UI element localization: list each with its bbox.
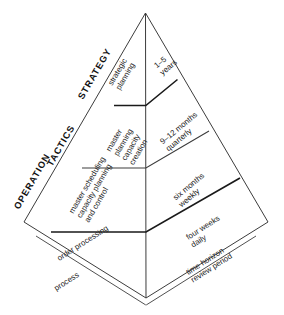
- planning-pyramid-diagram: OPERATION TACTICS STRATEGY strategic pla…: [0, 0, 284, 315]
- pyramid-graphic: [0, 0, 284, 315]
- pyramid-center-edge: [146, 13, 147, 298]
